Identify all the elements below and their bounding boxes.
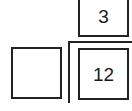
right-box-label: 12: [93, 65, 114, 84]
bracket-horizontal-line: [68, 41, 132, 43]
right-box: 12: [78, 48, 129, 100]
bracket-vertical-line: [68, 41, 70, 103]
left-empty-box: [11, 47, 62, 99]
top-box-label: 3: [98, 7, 109, 26]
top-box: 3: [78, 0, 129, 37]
